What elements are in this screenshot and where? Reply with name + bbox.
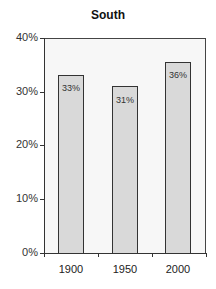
y-tick [40, 92, 44, 93]
x-tick-label: 1900 [51, 263, 91, 275]
x-tick-label: 2000 [158, 263, 198, 275]
x-tick-label: 1950 [105, 263, 145, 275]
y-tick [40, 38, 44, 39]
x-tick [206, 253, 207, 257]
y-tick [40, 145, 44, 146]
x-tick [152, 253, 153, 257]
bar-1950 [112, 86, 138, 253]
bar-value-label: 33% [58, 83, 84, 93]
x-axis [44, 253, 207, 254]
y-tick-label: 0% [0, 246, 38, 258]
y-tick-label: 30% [0, 85, 38, 97]
y-tick-label: 40% [0, 31, 38, 43]
bar-value-label: 31% [112, 95, 138, 105]
y-tick-label: 10% [0, 192, 38, 204]
bar-1900 [58, 75, 84, 253]
y-tick [40, 199, 44, 200]
chart-title: South [0, 8, 216, 22]
y-axis [44, 38, 45, 254]
bar-2000 [165, 62, 191, 253]
x-tick [98, 253, 99, 257]
x-tick [44, 253, 45, 257]
bar-value-label: 36% [165, 70, 191, 80]
y-tick-label: 20% [0, 138, 38, 150]
